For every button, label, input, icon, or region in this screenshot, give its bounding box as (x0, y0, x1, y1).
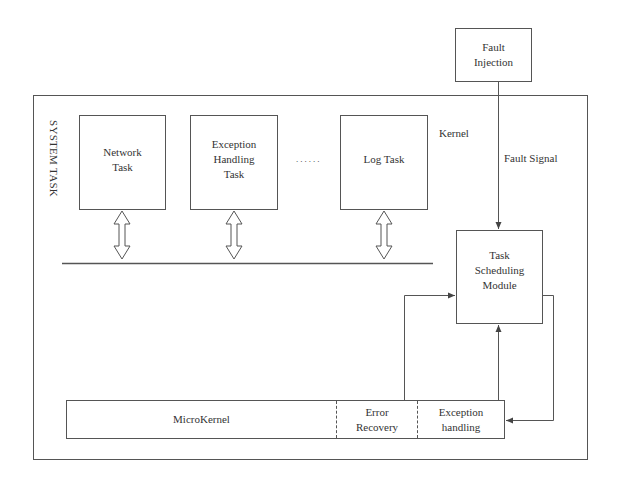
error-recovery-label-2: Recovery (356, 420, 398, 435)
exception-handling-task-label-1: Exception (212, 137, 257, 152)
network-task-box: Network Task (79, 115, 166, 210)
task-scheduling-label-1: Task (489, 248, 510, 263)
exception-handling-task-label-2: Handling (214, 152, 255, 167)
system-task-label: SYSTEM TASK (48, 120, 60, 197)
task-scheduling-module-box: Task Scheduling Module (456, 230, 543, 324)
task-scheduling-label-2: Scheduling (475, 263, 525, 278)
network-task-label-1: Network (103, 145, 142, 160)
error-recovery-label-1: Error (365, 405, 388, 420)
microkernel-bar: MicroKernel Error Recovery Exception han… (66, 400, 505, 439)
fault-injection-label-2: Injection (474, 55, 513, 70)
microkernel-label: MicroKernel (173, 412, 230, 427)
exception-handling-task-box: Exception Handling Task (190, 115, 278, 210)
fault-injection-label-1: Fault (482, 40, 505, 55)
kernel-label: Kernel (439, 127, 469, 139)
exception-handling-label-1: Exception (439, 405, 484, 420)
exception-handling-label-2: handling (442, 420, 481, 435)
error-recovery-cell: Error Recovery (336, 401, 417, 438)
log-task-box: Log Task (340, 115, 428, 210)
microkernel-cell: MicroKernel (67, 401, 336, 438)
task-scheduling-label-3: Module (482, 278, 516, 293)
exception-handling-task-label-3: Task (224, 167, 245, 182)
exception-handling-cell: Exception handling (417, 401, 504, 438)
fault-signal-label: Fault Signal (504, 152, 557, 164)
network-task-label-2: Task (112, 160, 133, 175)
fault-injection-box: Fault Injection (455, 28, 532, 82)
ellipsis: ...... (296, 154, 322, 164)
log-task-label: Log Task (364, 152, 405, 167)
